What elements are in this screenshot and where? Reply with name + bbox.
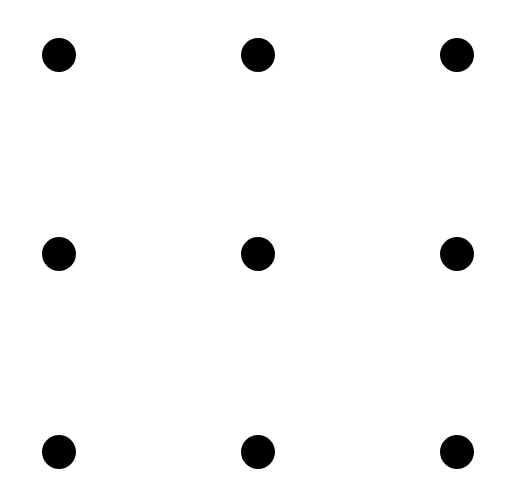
grid-dot-r3-c1 [42,435,76,469]
grid-dot-r1-c2 [241,38,275,72]
grid-dot-r2-c1 [42,237,76,271]
grid-dot-r2-c2 [241,237,275,271]
grid-dot-r1-c3 [440,38,474,72]
grid-dot-r3-c3 [440,435,474,469]
dot-grid-diagram [0,0,510,498]
grid-dot-r3-c2 [241,435,275,469]
grid-dot-r2-c3 [440,237,474,271]
grid-dot-r1-c1 [42,38,76,72]
